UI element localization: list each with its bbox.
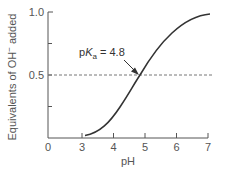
x-tick-label-4: 4 <box>110 141 116 153</box>
x-axis-label: pH <box>121 155 135 167</box>
y-axis-label: Equivalents of OH− added <box>5 14 18 141</box>
pka-label: pKa = 4.8 <box>79 46 125 61</box>
x-tick-label-6: 6 <box>173 141 179 153</box>
x-tick-label-3: 3 <box>79 141 85 153</box>
y-tick-label-1.0: 1.0 <box>29 6 44 18</box>
x-tick-label-7: 7 <box>205 141 211 153</box>
y-axis-label-suffix: added <box>6 14 18 48</box>
y-axis-label-main: Equivalents of OH <box>6 52 18 141</box>
pka-label-value: = 4.8 <box>97 46 125 58</box>
titration-chart: 1.0 0.5 0 3 4 5 6 7 pH Equivalents of OH… <box>0 0 226 171</box>
y-tick-label-0.5: 0.5 <box>29 69 44 81</box>
x-tick-label-0: 0 <box>45 141 51 153</box>
x-tick-label-5: 5 <box>142 141 148 153</box>
